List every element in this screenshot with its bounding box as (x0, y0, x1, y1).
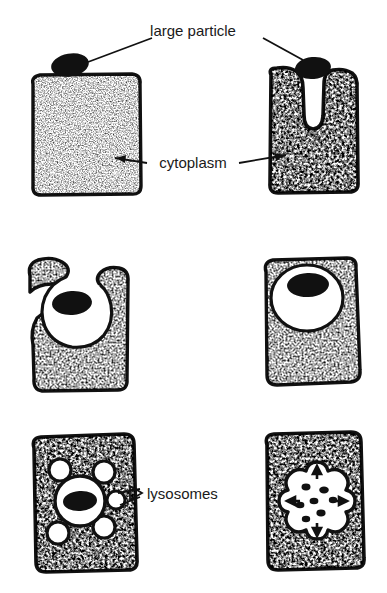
fragment (329, 497, 337, 503)
fragment (302, 516, 310, 522)
panel-6-digestion (259, 426, 371, 574)
label-cytoplasm-text: cytoplasm (159, 154, 227, 171)
lysosome (47, 522, 69, 544)
label-lysosomes-text: lysosomes (147, 485, 218, 502)
lysosome (93, 461, 115, 483)
fragment (310, 498, 319, 504)
fragment (316, 510, 325, 517)
fragment (319, 487, 329, 494)
panel-2-invagination (262, 55, 368, 202)
label-large-particle-text: large particle (150, 22, 236, 39)
lysosome (107, 491, 125, 509)
panel-4-sealed-vacuole (258, 252, 370, 392)
panel-1-free-particle (25, 50, 153, 204)
cytoplasm-texture (25, 68, 153, 204)
fragment (296, 502, 305, 508)
phagocytosis-diagram: large particle cytoplasm lysosomes (0, 0, 387, 593)
fragment (302, 484, 311, 491)
